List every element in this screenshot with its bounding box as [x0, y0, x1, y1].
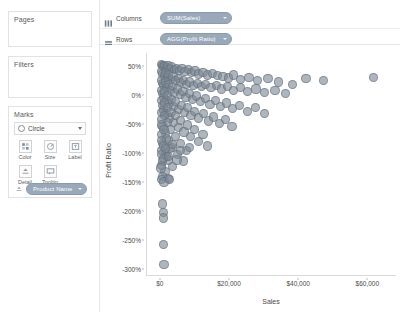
y-tick-mark	[142, 240, 144, 241]
scatter-mark[interactable]	[159, 213, 168, 222]
pill-sum-sales[interactable]: SUM(Sales)	[160, 12, 232, 24]
scatter-mark[interactable]	[260, 109, 269, 118]
marks-size-button[interactable]: Size	[39, 140, 61, 160]
x-tick-label: $40,000	[286, 280, 310, 287]
scatter-mark[interactable]	[251, 103, 260, 112]
pill-agg-profit-ratio[interactable]: AGG(Profit Ratio)	[160, 33, 232, 45]
y-tick-mark	[142, 152, 144, 153]
x-axis-title-text: Sales	[262, 298, 280, 305]
left-sidebar: Pages Filters Marks Circle	[0, 0, 100, 312]
scatter-mark[interactable]	[301, 74, 310, 83]
chevron-down-icon	[78, 127, 82, 130]
scatter-mark[interactable]	[227, 122, 236, 131]
scatter-mark[interactable]	[156, 163, 165, 172]
y-tick-label: 0%	[132, 91, 141, 98]
y-axis-title-text: Profit Ratio	[105, 143, 112, 178]
marks-color-button[interactable]: Color	[14, 140, 36, 160]
scatter-mark[interactable]	[270, 86, 279, 95]
y-tick-label: -100%	[122, 149, 141, 156]
scatter-mark[interactable]	[263, 74, 272, 83]
y-tick-mark	[142, 65, 144, 66]
scatter-mark[interactable]	[176, 146, 185, 155]
scatter-mark[interactable]	[369, 73, 378, 82]
marks-tooltip-button[interactable]: Tooltip	[39, 165, 61, 185]
pages-card[interactable]: Pages	[8, 11, 92, 47]
x-axis-ticks: $0$20,000$40,000$60,000	[146, 278, 396, 290]
scatter-mark[interactable]	[260, 88, 269, 97]
y-tick-mark	[142, 269, 144, 270]
marks-spacer	[64, 165, 86, 185]
scatter-mark[interactable]	[159, 125, 168, 134]
scatter-mark[interactable]	[288, 80, 297, 89]
y-tick-label: -50%	[126, 120, 141, 127]
marks-color-label: Color	[18, 155, 31, 161]
circle-icon	[18, 125, 25, 132]
scatter-mark[interactable]	[165, 175, 174, 184]
x-tick-mark	[229, 278, 230, 280]
marks-label-button[interactable]: Label	[64, 140, 86, 160]
pill-product-name[interactable]: Product Name	[26, 183, 87, 195]
marks-buttons-row-secondary: Detail Tooltip	[14, 165, 86, 185]
columns-shelf-label: Columns	[116, 15, 150, 22]
shelf-container: Columns SUM(Sales) Rows AGG(Profit Ratio…	[100, 0, 400, 45]
scatter-mark[interactable]	[198, 130, 207, 139]
size-icon	[44, 140, 57, 153]
scatter-mark[interactable]	[319, 76, 328, 85]
tableau-worksheet: Pages Filters Marks Circle	[0, 0, 400, 312]
y-tick-label: -150%	[122, 179, 141, 186]
scatter-mark[interactable]	[281, 89, 290, 98]
color-icon	[19, 140, 32, 153]
marks-detail-pill-row: Product Name	[14, 183, 87, 195]
y-tick-mark	[142, 182, 144, 183]
columns-shelf[interactable]: Columns SUM(Sales)	[100, 8, 400, 29]
scatter-mark[interactable]	[172, 155, 181, 164]
rows-shelf-label: Rows	[116, 36, 150, 43]
x-tick-label: $60,000	[356, 280, 380, 287]
x-tick-mark	[159, 278, 160, 280]
label-icon	[69, 140, 82, 153]
detail-icon	[14, 185, 23, 194]
y-tick-label: -200%	[122, 208, 141, 215]
y-tick-label: -250%	[122, 237, 141, 244]
marks-detail-button[interactable]: Detail	[14, 165, 36, 185]
scatter-mark[interactable]	[185, 143, 194, 152]
y-tick-mark	[142, 123, 144, 124]
scatter-mark[interactable]	[159, 240, 168, 249]
plot-canvas[interactable]	[146, 53, 396, 276]
y-tick-label: -300%	[122, 266, 141, 273]
scatter-mark[interactable]	[159, 260, 168, 269]
y-axis-ticks: 50%0%-50%-100%-150%-200%-250%-300%	[112, 53, 144, 276]
scatter-mark[interactable]	[203, 141, 212, 150]
rows-icon	[104, 35, 113, 44]
filters-card[interactable]: Filters	[8, 56, 92, 98]
marks-buttons-row-primary: Color Size	[14, 140, 86, 160]
worksheet-main: Columns SUM(Sales) Rows AGG(Profit Ratio…	[100, 0, 400, 312]
marks-card-title: Marks	[9, 107, 91, 121]
marks-size-label: Size	[45, 155, 56, 161]
pages-card-title: Pages	[9, 12, 91, 26]
marks-card[interactable]: Marks Circle Color	[8, 106, 92, 198]
x-tick-label: $20,000	[217, 280, 241, 287]
columns-icon	[104, 14, 113, 23]
detail-icon	[19, 165, 32, 178]
y-tick-mark	[142, 211, 144, 212]
filters-card-title: Filters	[9, 57, 91, 71]
mark-type-dropdown[interactable]: Circle	[14, 122, 86, 135]
x-tick-label: $0	[156, 280, 163, 287]
scatter-plot[interactable]: Profit Ratio 50%0%-50%-100%-150%-200%-25…	[100, 45, 400, 312]
mark-type-label: Circle	[28, 125, 78, 132]
x-tick-mark	[367, 278, 368, 280]
x-axis-title: Sales	[146, 298, 396, 305]
y-tick-mark	[142, 94, 144, 95]
marks-label-label: Label	[68, 155, 81, 161]
tooltip-icon	[44, 165, 57, 178]
x-tick-mark	[298, 278, 299, 280]
y-tick-label: 50%	[128, 62, 141, 69]
